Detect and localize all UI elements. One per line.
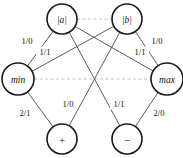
edge-label-min-plus: 2/1 — [20, 108, 31, 118]
node-plus[interactable]: + — [47, 124, 77, 154]
edge-label-abs_a-max: 1/1 — [135, 47, 146, 57]
node-label-minus: − — [124, 134, 130, 146]
node-label-max: max — [159, 75, 176, 85]
node-abs_a[interactable]: |a| — [47, 4, 77, 34]
edge-label-abs_b-max: 1/0 — [152, 36, 163, 46]
node-label-abs_a: |a| — [57, 15, 67, 25]
graph-svg: |a||b|minmax+− 1/01/11/11/02/11/01/12/0 — [0, 0, 183, 158]
node-label-min: min — [11, 75, 26, 85]
edge-label-layer: 1/01/11/11/02/11/01/12/0 — [16, 36, 168, 119]
node-minus[interactable]: − — [112, 124, 142, 154]
edge-label-abs_b-plus: 1/0 — [63, 99, 74, 109]
node-max[interactable]: max — [151, 63, 183, 95]
edge-label-abs_a-min: 1/0 — [22, 36, 33, 46]
node-abs_b[interactable]: |b| — [112, 4, 142, 34]
edge-label-max-minus: 2/0 — [154, 108, 165, 118]
node-min[interactable]: min — [2, 63, 34, 95]
edge-label-abs_a-minus: 1/1 — [114, 99, 125, 109]
edge-label-abs_b-min: 1/1 — [40, 47, 51, 57]
diagram-canvas: |a||b|minmax+− 1/01/11/11/02/11/01/12/0 — [0, 0, 183, 158]
node-label-plus: + — [59, 134, 65, 146]
edge-layer — [27, 26, 158, 127]
node-label-abs_b: |b| — [122, 15, 132, 25]
node-layer: |a||b|minmax+− — [2, 4, 183, 154]
